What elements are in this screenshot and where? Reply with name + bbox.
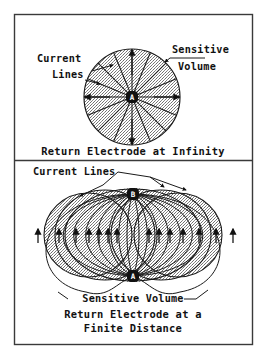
bottom-sensitive-volume: [44, 188, 222, 282]
annotation-current-lines-bottom-label: Current Lines: [33, 166, 115, 177]
annotation-sensitive-volume-top-line1: Sensitive: [172, 44, 229, 55]
electrode-b-bottom-label: B: [131, 190, 136, 199]
electrode-a-bottom: A: [128, 271, 139, 282]
electrode-a-top-label: A: [130, 93, 135, 102]
electrode-a-bottom-label: A: [131, 272, 136, 281]
annotation-sensitive-volume-bottom-label: Sensitive Volume: [82, 293, 183, 304]
annotation-sensitive-volume-top-line2: Volume: [178, 61, 216, 72]
electrode-a-top: A: [127, 92, 138, 103]
electrode-sensitive-volume-figure: A Current Lines Sensitive Volume Return …: [0, 0, 267, 360]
panel-bottom-caption-line2: Finite Distance: [84, 322, 182, 334]
electrode-b-bottom: B: [128, 189, 139, 200]
annotation-current-lines-top-line1: Current: [37, 53, 81, 64]
figure-root: A Current Lines Sensitive Volume Return …: [0, 0, 267, 360]
panel-bottom-caption-line1: Return Electrode at a: [64, 308, 202, 320]
annotation-current-lines-top-line2: Lines: [52, 69, 84, 80]
panel-top-caption: Return Electrode at Infinity: [41, 145, 225, 157]
